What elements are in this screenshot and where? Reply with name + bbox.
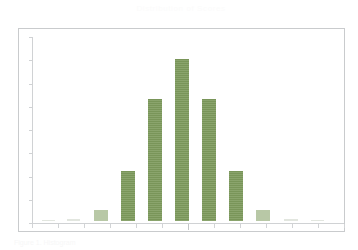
y-axis-tick: [29, 177, 33, 178]
x-axis-tick: [214, 224, 215, 228]
bar: [94, 210, 108, 221]
bar: [42, 220, 55, 221]
y-axis-tick: [29, 107, 33, 108]
y-axis-tick: [29, 200, 33, 201]
bar: [256, 210, 270, 221]
x-axis-tick: [136, 224, 137, 228]
x-axis-tick: [84, 224, 85, 228]
bar: [284, 219, 298, 221]
bar: [67, 219, 80, 221]
x-axis-tick: [110, 224, 111, 228]
scanned-page: Distribution of Scores Figure 1. Histogr…: [0, 0, 358, 250]
x-axis-tick: [318, 224, 319, 228]
bar: [121, 171, 135, 221]
x-axis-tick: [32, 224, 33, 228]
x-axis-tick: [58, 224, 59, 228]
bar: [311, 220, 324, 221]
x-axis-tick: [240, 224, 241, 228]
y-axis-tick: [29, 84, 33, 85]
bar: [148, 99, 162, 221]
chart-frame: [18, 28, 345, 232]
figure-caption: Figure 1. Histogram: [14, 238, 134, 247]
x-axis-tick: [292, 224, 293, 228]
y-axis-tick: [29, 130, 33, 131]
y-axis-tick: [29, 60, 33, 61]
bar: [202, 99, 216, 221]
x-axis-tick: [188, 224, 189, 230]
bar: [175, 59, 189, 221]
x-axis-tick: [344, 224, 345, 228]
bar: [229, 171, 243, 221]
y-axis-tick: [29, 37, 33, 38]
page-title: Distribution of Scores: [96, 3, 266, 14]
x-axis-tick: [266, 224, 267, 228]
y-axis-tick: [29, 153, 33, 154]
x-axis-tick: [162, 224, 163, 228]
plot-area: [19, 29, 344, 231]
